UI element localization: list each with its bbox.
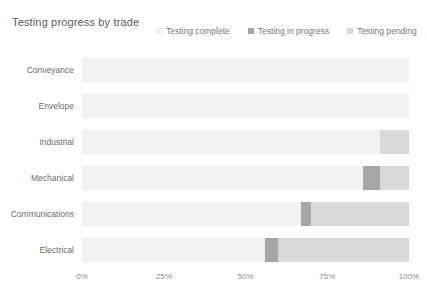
x-axis: 0%25%50%75%100% bbox=[82, 272, 409, 292]
category-axis-labels: ConveyanceEnvelopeIndustrialMechanicalCo… bbox=[0, 50, 74, 265]
category-label: Envelope bbox=[0, 94, 74, 118]
chart-legend: Testing completeTesting in progressTesti… bbox=[156, 26, 417, 36]
bar-segment[interactable] bbox=[82, 166, 363, 190]
bar-segment[interactable] bbox=[82, 58, 409, 82]
legend-item[interactable]: Testing in progress bbox=[248, 26, 329, 36]
bar-segment[interactable] bbox=[380, 130, 409, 154]
stacked-bar[interactable] bbox=[82, 166, 409, 190]
bar-row bbox=[82, 130, 409, 154]
legend-item[interactable]: Testing pending bbox=[347, 26, 417, 36]
stacked-bar[interactable] bbox=[82, 58, 409, 82]
bar-segment[interactable] bbox=[82, 202, 301, 226]
chart-container: Testing progress by trade Testing comple… bbox=[0, 0, 427, 305]
bar-segment[interactable] bbox=[278, 238, 409, 262]
bar-row bbox=[82, 94, 409, 118]
legend-swatch-icon bbox=[248, 28, 254, 34]
stacked-bar[interactable] bbox=[82, 202, 409, 226]
legend-item[interactable]: Testing complete bbox=[156, 26, 230, 36]
category-label: Communications bbox=[0, 202, 74, 226]
bar-segment[interactable] bbox=[82, 130, 380, 154]
bar-segment[interactable] bbox=[311, 202, 409, 226]
x-axis-tick-label: 100% bbox=[399, 272, 419, 281]
legend-label: Testing pending bbox=[357, 26, 417, 36]
bar-segment[interactable] bbox=[301, 202, 311, 226]
legend-swatch-icon bbox=[156, 28, 162, 34]
bar-segment[interactable] bbox=[363, 166, 379, 190]
bar-segment[interactable] bbox=[82, 238, 265, 262]
bar-segment[interactable] bbox=[380, 166, 409, 190]
x-axis-tick-label: 50% bbox=[237, 272, 253, 281]
legend-label: Testing in progress bbox=[258, 26, 329, 36]
category-label: Industrial bbox=[0, 130, 74, 154]
bar-segment[interactable] bbox=[265, 238, 278, 262]
legend-label: Testing complete bbox=[166, 26, 230, 36]
bar-row bbox=[82, 202, 409, 226]
category-label: Electrical bbox=[0, 238, 74, 262]
legend-swatch-icon bbox=[347, 28, 353, 34]
bar-row bbox=[82, 58, 409, 82]
bar-row bbox=[82, 238, 409, 262]
x-axis-tick-label: 0% bbox=[76, 272, 88, 281]
stacked-bar[interactable] bbox=[82, 238, 409, 262]
x-axis-tick-label: 75% bbox=[319, 272, 335, 281]
category-label: Mechanical bbox=[0, 166, 74, 190]
stacked-bar[interactable] bbox=[82, 130, 409, 154]
x-axis-tick-label: 25% bbox=[156, 272, 172, 281]
plot-area bbox=[82, 50, 409, 265]
bar-row bbox=[82, 166, 409, 190]
bar-segment[interactable] bbox=[82, 94, 409, 118]
stacked-bar[interactable] bbox=[82, 94, 409, 118]
category-label: Conveyance bbox=[0, 58, 74, 82]
chart-title: Testing progress by trade bbox=[12, 16, 139, 28]
